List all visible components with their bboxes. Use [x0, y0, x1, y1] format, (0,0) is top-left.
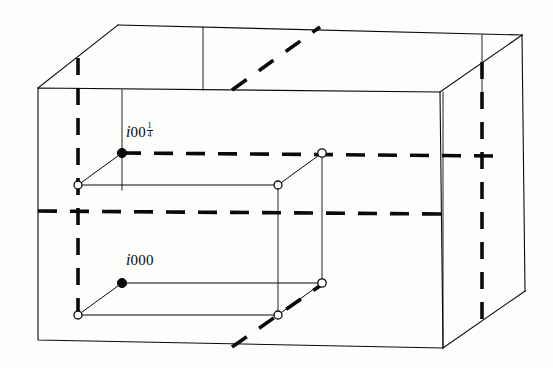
node-open-upper-left — [74, 181, 82, 189]
right-back-vertical — [522, 35, 525, 291]
inner-thin-verticals — [122, 27, 482, 348]
upper-layer-lines — [78, 153, 322, 185]
node-open-lower-right — [318, 279, 326, 287]
parallelepiped-diagram — [0, 0, 553, 368]
lower-layer-lines — [78, 283, 322, 315]
upper-right-slant — [278, 153, 322, 185]
label-upper-subscript: 00 — [130, 124, 146, 140]
node-filled-upper — [117, 148, 126, 157]
node-filled-lower — [117, 278, 126, 287]
dashed-diagonal-top — [232, 27, 320, 90]
top-back-edge — [118, 25, 522, 35]
figure-canvas: i0014 i000 — [0, 0, 553, 368]
lower-left-slant — [78, 283, 122, 315]
label-i-000: i000 — [126, 252, 154, 268]
node-open-upper-midfront — [274, 181, 282, 189]
node-open-lower-midfront — [274, 311, 282, 319]
top-left-diagonal — [38, 25, 118, 88]
dashed-horizontal-middle — [38, 211, 443, 214]
upper-left-slant — [78, 153, 122, 185]
bottom-right-diagonal — [443, 291, 525, 348]
fraction-denominator: 4 — [147, 131, 153, 139]
label-upper-fraction: 14 — [147, 122, 153, 139]
node-open-lower-left — [74, 311, 82, 319]
lower-right-slant — [278, 283, 322, 315]
node-open-upper-right — [318, 149, 326, 157]
front-face-outline — [38, 88, 443, 348]
label-lower-subscript: 000 — [130, 252, 153, 268]
label-i-00-quarter: i0014 — [126, 122, 153, 140]
hidden-dashed-edges — [38, 27, 500, 347]
